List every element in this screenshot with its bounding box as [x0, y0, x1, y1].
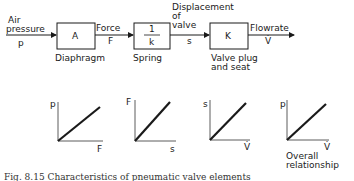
spring-caption: Spring: [133, 53, 162, 63]
graph-s-vs-v: s V̇: [203, 99, 251, 152]
g4-ylabel: p: [280, 99, 286, 109]
g4-note-2: relationship: [286, 160, 339, 170]
input-label-2: pressure: [6, 24, 45, 34]
diagram-canvas: Air pressure p A Diaphragm Force F 1 k S…: [0, 0, 354, 181]
flowrate-label: Flowrate: [250, 23, 289, 33]
g3-ylabel: s: [203, 99, 208, 109]
g3-xlabel: V̇: [244, 141, 251, 152]
displacement-label-1: Displacement: [172, 2, 234, 12]
graph-overall: p V̇ Overall relationship: [280, 99, 339, 170]
graph-f-vs-s: F s: [126, 97, 176, 154]
g1-ylabel: p: [50, 99, 56, 109]
force-label: Force: [96, 23, 121, 33]
force-symbol: F: [108, 36, 113, 46]
block-k-text: K: [225, 31, 232, 41]
displacement-symbol: s: [187, 36, 192, 46]
block-a-text: A: [72, 31, 79, 41]
g4-xlabel: V̇: [324, 141, 331, 152]
g2-ylabel: F: [126, 97, 131, 107]
input-symbol: p: [18, 38, 24, 48]
spring-numerator: 1: [149, 24, 155, 34]
block-k-caption-2: and seat: [211, 62, 251, 72]
g2-xlabel: s: [170, 144, 175, 154]
displacement-label-3: valve: [172, 20, 197, 30]
block-a-caption: Diaphragm: [55, 53, 105, 63]
flowrate-symbol: V̇: [265, 35, 272, 46]
graph-p-vs-f: p F: [50, 99, 103, 154]
spring-denominator: k: [149, 37, 155, 47]
figure-caption: Fig. 8.15 Characteristics of pneumatic v…: [4, 172, 251, 181]
g1-xlabel: F: [97, 144, 102, 154]
